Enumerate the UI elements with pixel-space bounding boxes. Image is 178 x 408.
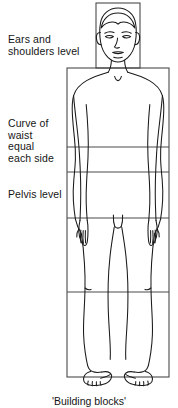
collarbone-notch — [115, 76, 122, 80]
left-leg-inner — [108, 227, 114, 359]
crotch-right — [121, 215, 122, 227]
left-leg-outer — [81, 234, 87, 366]
right-toe-3 — [139, 382, 140, 386]
crotch-left — [113, 215, 114, 227]
right-leg-inner — [122, 227, 128, 359]
right-arm-outer — [155, 96, 162, 221]
left-arm-inner — [86, 105, 88, 221]
annotation-ears-and-shoulders: Ears and shoulders level — [8, 34, 80, 57]
right-toe-4 — [135, 382, 136, 386]
right-eyebrow — [122, 32, 131, 33]
torso-right-outline — [128, 72, 164, 219]
neck-right — [125, 61, 128, 73]
figure-caption: 'Building blocks' — [0, 395, 178, 407]
crotch-bottom — [115, 227, 121, 229]
right-eye — [123, 35, 131, 37]
right-instep — [126, 375, 136, 379]
left-eyebrow — [105, 32, 114, 33]
posture-diagram: Ears and shoulders level Curve of waist … — [0, 0, 178, 408]
chin-crease — [114, 57, 122, 58]
right-leg-outer — [148, 234, 154, 366]
left-knee-hint — [85, 288, 91, 290]
annotation-curve-of-waist: Curve of waist equal each side — [8, 118, 54, 164]
right-arm-inner — [148, 105, 150, 221]
human-figure-outline — [72, 8, 164, 386]
hairline — [101, 13, 135, 28]
neck-left — [108, 61, 111, 73]
right-knee-hint — [145, 288, 151, 290]
body-guide-box — [67, 68, 169, 377]
alignment-guides — [67, 3, 169, 377]
left-arm-outer — [74, 96, 81, 221]
body-illustration — [0, 0, 178, 408]
nose — [114, 38, 119, 48]
left-toe-4 — [100, 382, 101, 386]
left-instep — [101, 375, 111, 379]
left-toe-3 — [96, 382, 97, 386]
annotation-pelvis-level: Pelvis level — [8, 189, 62, 201]
torso-left-outline — [72, 72, 108, 219]
left-eye — [105, 35, 113, 37]
mouth — [113, 52, 124, 54]
